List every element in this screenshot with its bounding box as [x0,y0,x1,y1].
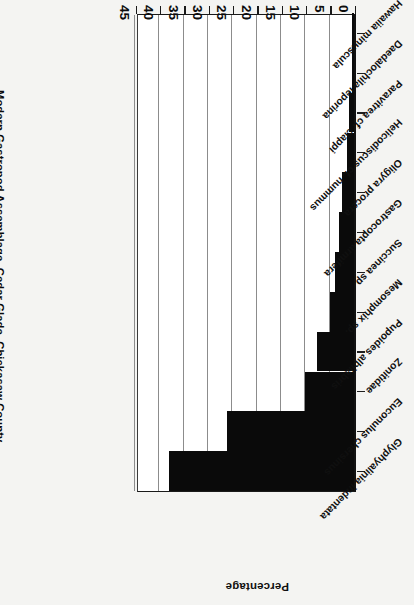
bar-row [138,451,354,491]
category-tick [357,73,365,74]
x-axis-tick-label: 30 [190,5,205,20]
category-label: Gastrocopta armifera [364,197,404,237]
x-axis-tick-label: 0 [336,5,351,13]
bar-row [138,252,354,292]
category-label: Euconulus chersinus [364,396,404,436]
x-axis-caption: Percentage [226,581,289,593]
x-axis-tick [160,6,161,14]
x-axis-tick-label: 5 [312,5,327,13]
x-axis-tick [355,6,356,14]
x-axis-tick [209,6,210,14]
bar [318,332,355,372]
x-axis-tick-label: 45 [117,5,132,20]
category-label: Succinea sp. [364,237,404,277]
chart-figure: Modern Gastropod Assemblage, Cedar Glade… [0,0,414,605]
category-tick [357,431,365,432]
bar-row [138,411,354,451]
category-label: Helicodiscus cf. nummus [364,118,404,158]
x-axis-tick [233,6,234,14]
figure-rotation-wrapper: Modern Gastropod Assemblage, Cedar Glade… [0,0,414,605]
category-tick-strip [356,14,365,492]
bar [352,53,354,93]
bar-row [138,332,354,372]
x-axis-tick-label: 25 [214,5,229,20]
category-tick [357,232,365,233]
category-label: Mesomphix sp. [364,277,404,317]
bar [169,451,354,491]
category-tick [357,272,365,273]
category-tick [357,351,365,352]
category-label: Daedalochila leporina [364,38,404,78]
x-axis-tick [282,6,283,14]
gridline [134,15,135,491]
category-tick [357,471,365,472]
bar-row [138,372,354,412]
x-axis-tick [330,6,331,14]
bar [352,13,354,53]
x-axis-tick [136,6,137,14]
category-label: Paravitrea cf. clappi [364,78,404,118]
bar-row [138,172,354,212]
x-axis-tick [306,6,307,14]
bar [347,133,354,173]
category-tick [357,33,365,34]
bar [330,292,354,332]
bar-row [138,93,354,133]
category-label: Pupoides albilabris [364,317,404,357]
category-label: Oligyra procera [364,157,404,197]
x-axis-tick-label: 15 [263,5,278,20]
x-axis-tick-label: 20 [239,5,254,20]
category-label: Hawaiia minuscula [364,0,404,38]
chart-title: Modern Gastropod Assemblage, Cedar Glade… [0,90,6,510]
bar [339,212,354,252]
category-tick [357,391,365,392]
x-axis-tick-label: 35 [166,5,181,20]
category-tick [357,112,365,113]
category-tick [357,152,365,153]
bar [335,252,354,292]
x-axis-tick [184,6,185,14]
bar-row [138,53,354,93]
category-tick [357,312,365,313]
x-axis-tick-label: 40 [141,5,156,20]
category-label: Zonitidae [364,357,404,397]
bar [227,411,354,451]
x-axis-tick-label: 10 [287,5,302,20]
bar-row [138,292,354,332]
category-label: Glyphyalinia indentata [364,436,404,476]
category-tick [357,192,365,193]
bar [305,372,354,412]
bar-row [138,212,354,252]
bar-row [138,133,354,173]
x-axis-tick [257,6,258,14]
plot-area [137,14,356,492]
bar [349,93,354,133]
bar [342,172,354,212]
